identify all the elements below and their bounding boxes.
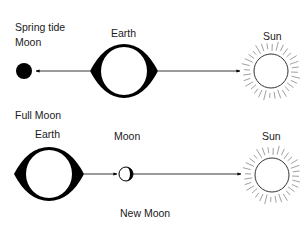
new-moon-sun-label: Sun	[262, 131, 281, 142]
full-moon-earth	[90, 44, 158, 98]
full-moon-earth-label: Earth	[111, 28, 136, 39]
new-moon-caption: New Moon	[120, 208, 170, 219]
new-moon-panel	[14, 146, 300, 204]
new-moon-moon	[119, 167, 133, 181]
full-moon-caption: Full Moon	[15, 110, 61, 121]
full-moon-sun-label: Sun	[263, 31, 282, 42]
full-moon-moon	[16, 63, 32, 79]
new-moon-earth	[14, 147, 84, 201]
full-moon-moon-label: Moon	[15, 37, 41, 48]
new-moon-sun	[243, 146, 300, 204]
new-moon-moon-label: Moon	[114, 131, 140, 142]
full-moon-sun	[242, 42, 300, 100]
full-moon-panel	[16, 42, 300, 100]
diagram-title: Spring tide	[15, 22, 65, 33]
new-moon-earth-label: Earth	[35, 129, 60, 140]
